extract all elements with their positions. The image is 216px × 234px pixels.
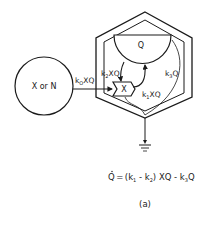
input-flow-label: kOXQ: [75, 76, 94, 86]
k1-flow-label: k1XQ: [142, 90, 161, 100]
k2-flow-arrow: [121, 62, 124, 81]
k3-flow-label: k3Q: [165, 69, 179, 79]
compartment-diagram: X or N Q kOXQ X k2XQ k1XQ k3Q Q=(k1 - k2…: [0, 0, 216, 234]
source-node: X or N: [15, 57, 73, 115]
ground-icon: [139, 118, 151, 151]
controller-node: X: [113, 82, 135, 96]
storage-label: Q: [138, 41, 144, 50]
equation-text: Q=(k1 - k2) XQ - k3Q: [108, 172, 195, 183]
k1-flow-arrow: [133, 65, 145, 87]
figure-caption: (a): [139, 199, 151, 209]
source-label: X or N: [32, 82, 57, 91]
container-hexagon: [96, 12, 192, 118]
k2-flow-label: k2XQ: [101, 69, 120, 79]
storage-node: Q: [114, 35, 171, 64]
x-loss-curve: [125, 97, 145, 115]
rate-equation: Q=(k1 - k2) XQ - k3Q: [108, 171, 195, 183]
controller-label: X: [121, 85, 127, 94]
